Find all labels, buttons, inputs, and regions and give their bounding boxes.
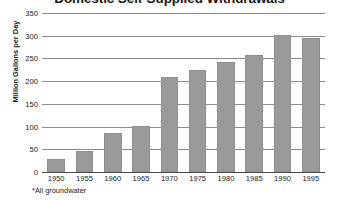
y-axis-tick-label: 0 — [34, 168, 38, 177]
x-axis-tick-label: 1975 — [189, 174, 206, 183]
x-axis-tick-label: 1955 — [76, 174, 93, 183]
x-axis-tick-label: 1960 — [104, 174, 121, 183]
x-axis-tick-label: 1980 — [217, 174, 234, 183]
x-axis-tick-label: 1965 — [133, 174, 150, 183]
bar — [132, 126, 150, 172]
y-axis-tick-label: 300 — [25, 31, 38, 40]
y-axis-tick-label: 250 — [25, 54, 38, 63]
bar — [217, 62, 235, 172]
bar — [189, 70, 207, 172]
y-axis-tick-label: 350 — [25, 9, 38, 18]
plot-area: 050100150200250300350 — [42, 13, 325, 172]
x-axis-tick-label: 1985 — [246, 174, 263, 183]
y-axis-tick-label: 50 — [30, 145, 38, 154]
x-axis-tick-label: 1950 — [48, 174, 65, 183]
bar — [104, 133, 122, 172]
x-axis-tick-label: 1995 — [302, 174, 319, 183]
bar — [302, 38, 320, 172]
axis-baseline — [42, 172, 325, 173]
bar — [245, 55, 263, 172]
y-axis-tick-label: 100 — [25, 122, 38, 131]
bar — [274, 35, 292, 172]
bar-chart-figure: Domestic Self-Supplied Withdrawals Milli… — [0, 0, 339, 201]
y-axis-title: Million Gallons per Day — [11, 17, 20, 107]
x-axis-tick-label: 1970 — [161, 174, 178, 183]
bars-series — [42, 13, 325, 172]
bar — [161, 77, 179, 172]
y-axis-tick-label: 200 — [25, 77, 38, 86]
chart-footnote: *All groundwater — [32, 186, 86, 195]
bar — [76, 151, 94, 172]
x-axis-tick-label: 1990 — [274, 174, 291, 183]
chart-title: Domestic Self-Supplied Withdrawals — [0, 0, 339, 6]
y-axis-tick-label: 150 — [25, 99, 38, 108]
bar — [47, 159, 65, 172]
x-axis-tick-labels: 1950195519601965197019751980198519901995 — [42, 174, 325, 186]
